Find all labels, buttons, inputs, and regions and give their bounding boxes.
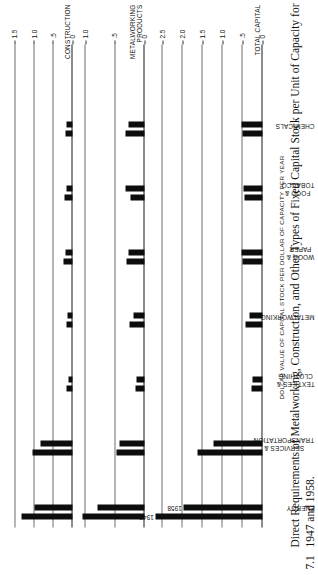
axis-tick-label: 0: [259, 34, 265, 44]
bar-1958: [252, 376, 262, 382]
bar-1947: [66, 385, 73, 391]
plot-area: 0.51.01.5: [10, 44, 72, 527]
bar-1958: [183, 504, 262, 510]
bar-1947: [245, 321, 262, 327]
bar-1947: [126, 258, 144, 264]
bar-1958: [125, 185, 144, 191]
series-year-label: 1958: [167, 504, 181, 511]
bar-1958: [119, 440, 144, 446]
bar-1947: [64, 194, 72, 200]
axis-tick-label: 0: [141, 34, 147, 44]
bar-1958: [133, 312, 144, 318]
bar-1947: [32, 449, 72, 455]
bar-1947: [242, 130, 262, 136]
chart-panel-1: METALWORKING PRODUCTS0.51.0: [78, 0, 144, 575]
bar-1958: [34, 504, 72, 510]
bar-1947: [63, 258, 72, 264]
bar-1958: [67, 312, 72, 318]
bar-1947: [65, 130, 72, 136]
chart-panel-0: TOTAL CAPITAL0.51.01.52.02.519471958: [150, 0, 262, 575]
bar-1958: [243, 185, 262, 191]
plot-area: 0.51.0: [78, 44, 144, 527]
axis-tick-label: 1.0: [82, 29, 88, 44]
axis-tick-label: 0: [69, 34, 75, 44]
bar-1947: [66, 321, 73, 327]
axis-tick-label: .5: [239, 33, 245, 44]
axis-tick-label: 1.0: [219, 29, 225, 44]
axis-tick-label: .5: [111, 33, 117, 44]
bar-series: [78, 44, 144, 527]
bar-1947: [82, 513, 144, 519]
bar-1947: [125, 130, 144, 136]
axis-tick-label: 1.5: [199, 29, 205, 44]
axis-tick-label: 1.0: [31, 29, 37, 44]
value-axis-label: DOLLAR VALUE OF CAPITAL STOCK PER DOLLAR…: [277, 7, 284, 547]
figure-number: 7.1: [302, 547, 317, 569]
bar-1958: [68, 376, 72, 382]
bar-1958: [241, 121, 262, 127]
bar-1947: [155, 513, 262, 519]
value-axis-ticks: 0.51.0: [78, 2, 144, 44]
axis-tick-label: 1.5: [11, 29, 17, 44]
figure-page: TOTAL CAPITAL0.51.01.52.02.519471958META…: [0, 0, 318, 575]
bar-1947: [197, 449, 262, 455]
chart-panels: TOTAL CAPITAL0.51.01.52.02.519471958META…: [0, 0, 262, 575]
bar-series: [150, 44, 262, 527]
rotated-figure-stage: TOTAL CAPITAL0.51.01.52.02.519471958META…: [0, 0, 318, 575]
bar-1947: [129, 321, 144, 327]
plot-area: 0.51.01.52.02.519471958: [150, 44, 262, 527]
bar-1958: [241, 249, 262, 255]
bar-series: [10, 44, 72, 527]
bar-1958: [66, 121, 73, 127]
bar-1947: [251, 385, 262, 391]
bar-1958: [97, 504, 144, 510]
bar-1958: [128, 121, 145, 127]
value-axis-ticks: 0.51.01.52.02.5: [150, 2, 262, 44]
bar-1947: [130, 194, 144, 200]
axis-tick-label: .5: [50, 33, 56, 44]
axis-tick-label: 2.5: [159, 29, 165, 44]
chart-panel-2: CONSTRUCTION0.51.01.5: [10, 0, 72, 575]
bar-1947: [21, 513, 72, 519]
bar-1947: [242, 258, 262, 264]
bar-1958: [128, 249, 145, 255]
axis-tick-label: 2.0: [179, 29, 185, 44]
bar-1947: [244, 194, 262, 200]
bar-1958: [65, 249, 72, 255]
bar-1958: [136, 376, 144, 382]
bar-1947: [135, 385, 144, 391]
value-axis-ticks: 0.51.01.5: [10, 2, 72, 44]
bar-1947: [116, 449, 144, 455]
bar-1958: [66, 185, 73, 191]
figure-caption: 7.1 Direct Requirements of Metalworking,…: [287, 3, 316, 569]
bar-1958: [40, 440, 72, 446]
figure-caption-text: Direct Requirements of Metalworking, Con…: [287, 3, 316, 547]
